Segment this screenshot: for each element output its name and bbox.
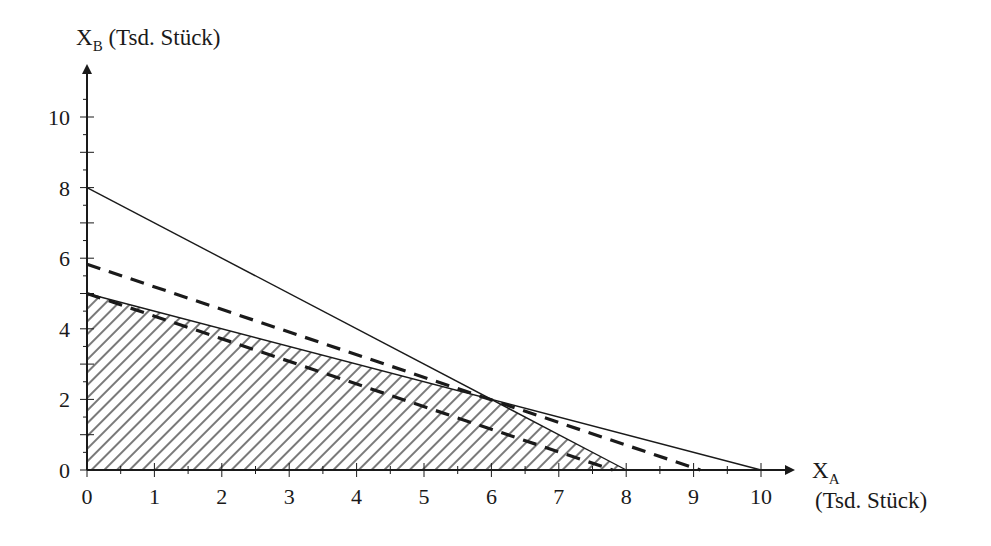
x-tick-label: 0 (82, 484, 93, 509)
feasible-region-hatch (87, 294, 626, 471)
y-tick-label: 8 (59, 176, 70, 201)
x-tick-label: 4 (351, 484, 362, 509)
y-tick-label: 10 (48, 105, 70, 130)
x-axis-label: XA (812, 458, 840, 487)
y-tick-label: 6 (59, 246, 70, 271)
y-tick-label: 0 (59, 458, 70, 483)
y-tick-label: 4 (59, 317, 70, 342)
x-tick-label: 9 (688, 484, 699, 509)
x-tick-label: 1 (149, 484, 160, 509)
x-tick-label: 5 (419, 484, 430, 509)
x-tick-label: 7 (553, 484, 564, 509)
y-tick-label: 2 (59, 387, 70, 412)
feasible-region (87, 294, 626, 471)
x-axis-unit-label: (Tsd. Stück) (815, 488, 927, 513)
chart: 0123456789100246810XB (Tsd. Stück)XA(Tsd… (0, 0, 991, 546)
x-tick-label: 2 (216, 484, 227, 509)
x-tick-label: 8 (621, 484, 632, 509)
y-axis-label: XB (Tsd. Stück) (76, 25, 221, 54)
x-tick-label: 6 (486, 484, 497, 509)
x-tick-label: 10 (750, 484, 772, 509)
x-tick-label: 3 (284, 484, 295, 509)
